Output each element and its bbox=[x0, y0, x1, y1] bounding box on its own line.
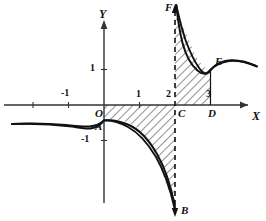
y-tick-minus1: -1 bbox=[81, 134, 89, 144]
x-tick-minus1: -1 bbox=[61, 88, 69, 98]
point-label-D: D bbox=[208, 108, 216, 119]
point-label-F: F bbox=[165, 2, 172, 13]
point-label-C: C bbox=[178, 108, 185, 119]
plot-canvas bbox=[0, 0, 266, 221]
x-tick-2: 2 bbox=[166, 89, 171, 99]
hyperbola-figure: Y X O -1 1 2 3 1 -1 A B C D E F bbox=[0, 0, 266, 221]
x-tick-3: 3 bbox=[206, 89, 211, 99]
y-axis-label: Y bbox=[99, 8, 106, 20]
point-label-E: E bbox=[215, 56, 222, 67]
origin-label: O bbox=[95, 108, 103, 119]
point-label-B: B bbox=[181, 205, 188, 216]
x-tick-1: 1 bbox=[136, 89, 141, 99]
x-axis-label: X bbox=[252, 110, 260, 122]
point-label-A: A bbox=[95, 121, 102, 132]
y-tick-1: 1 bbox=[90, 63, 95, 73]
